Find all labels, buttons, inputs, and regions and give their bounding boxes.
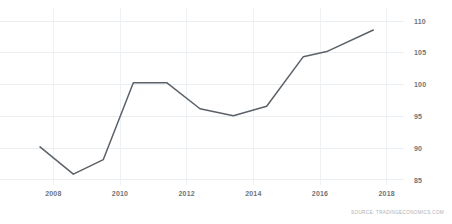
- y-axis-tick-label: 100: [414, 81, 426, 88]
- source-attribution: SOURCE: TRADINGECONOMICS.COM: [351, 210, 444, 215]
- x-axis-tick-label: 2008: [45, 190, 61, 197]
- y-axis-tick-label: 95: [414, 113, 422, 120]
- x-axis-tick-label: 2012: [178, 190, 194, 197]
- y-axis-tick-label: 85: [414, 177, 422, 184]
- x-axis-tick-label: 2018: [378, 190, 394, 197]
- x-axis-tick-label: 2016: [312, 190, 328, 197]
- x-axis-tick-label: 2010: [112, 190, 128, 197]
- y-axis-tick-label: 105: [414, 49, 426, 56]
- chart-container: 859095100105110200820102012201420162018S…: [0, 0, 452, 224]
- data-series-line: [40, 30, 373, 174]
- y-axis-tick-label: 90: [414, 145, 422, 152]
- line-chart: 859095100105110200820102012201420162018S…: [0, 0, 452, 224]
- x-axis-tick-label: 2014: [245, 190, 261, 197]
- y-axis-tick-label: 110: [414, 18, 426, 25]
